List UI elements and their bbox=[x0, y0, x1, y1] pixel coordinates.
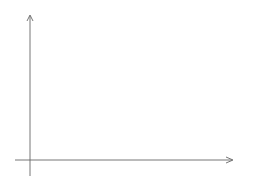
axes bbox=[15, 15, 233, 176]
secant-diagram bbox=[0, 0, 255, 194]
